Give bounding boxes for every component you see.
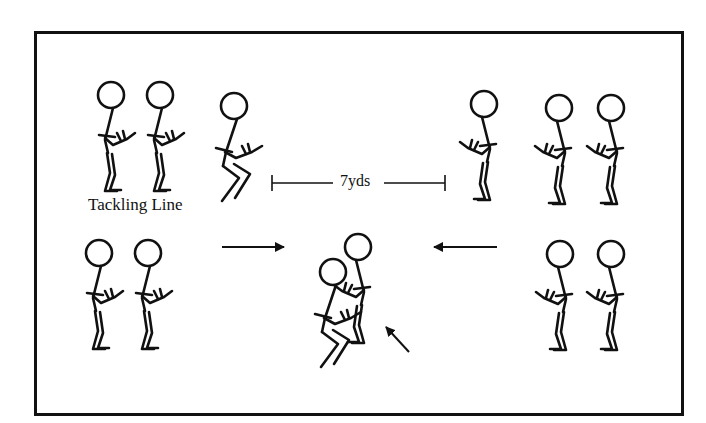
player-figure-ballcarrier-ready xyxy=(460,91,497,200)
head-icon xyxy=(345,234,371,260)
player-figure-tackler-line-4 xyxy=(135,240,172,349)
head-icon xyxy=(147,82,173,108)
player-figure-ballcarrier-line-3 xyxy=(536,241,573,350)
head-icon xyxy=(320,259,346,285)
player-figure-ballcarrier-line-1 xyxy=(535,95,572,204)
tackling-drill-diagram: Tackling Line 7yds xyxy=(0,0,706,423)
player-figure-tackler-line-2 xyxy=(147,82,184,191)
head-icon xyxy=(598,95,624,121)
player-figure-ballcarrier-line-2 xyxy=(587,95,624,204)
head-icon xyxy=(471,91,497,117)
player-figure-tackle-ballcarrier xyxy=(334,234,371,343)
head-icon xyxy=(547,241,573,267)
player-figure-tackler-ready xyxy=(216,93,262,201)
player-figure-tackler-line-1 xyxy=(98,82,135,191)
head-icon xyxy=(221,93,247,119)
player-figure-ballcarrier-line-4 xyxy=(587,241,624,350)
arrow-contact-point-icon xyxy=(386,327,409,352)
head-icon xyxy=(86,240,112,266)
head-icon xyxy=(98,82,124,108)
player-figure-tackler-line-3 xyxy=(86,240,123,349)
player-figure-tackle-tackler xyxy=(315,259,361,367)
head-icon xyxy=(598,241,624,267)
head-icon xyxy=(135,240,161,266)
head-icon xyxy=(546,95,572,121)
distance-label: 7yds xyxy=(336,173,374,189)
tackling-line-label: Tackling Line xyxy=(88,196,183,213)
